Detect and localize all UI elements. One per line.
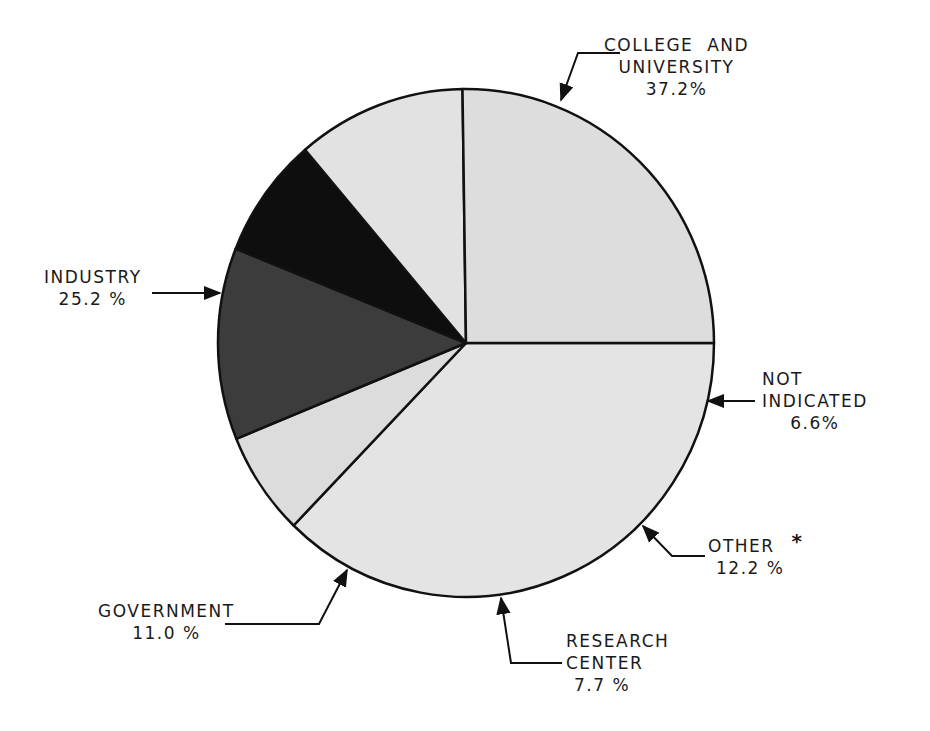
label-research-line2: CENTER [566, 652, 669, 674]
label-college-university: COLLEGE AND UNIVERSITY 37.2% [604, 34, 749, 100]
label-college-pct: 37.2% [604, 78, 749, 100]
label-government-pct: 11.0 % [98, 622, 235, 644]
label-research-center: RESEARCH CENTER 7.7 % [566, 630, 669, 696]
label-government-line1: GOVERNMENT [98, 600, 235, 622]
other-leader [643, 526, 705, 556]
label-research-line1: RESEARCH [566, 630, 669, 652]
label-other: OTHER * 12.2 % [708, 534, 803, 579]
label-not-indicated: NOT INDICATED 6.6% [762, 368, 868, 434]
government-leader [225, 570, 347, 624]
pie-slices [218, 89, 714, 597]
label-college-line2: UNIVERSITY [604, 56, 749, 78]
research-leader [501, 598, 562, 663]
label-research-pct: 7.7 % [566, 674, 669, 696]
label-not-indicated-line1: NOT [762, 368, 868, 390]
asterisk-footnote-mark: * [792, 529, 804, 553]
label-industry-line1: INDUSTRY [44, 266, 142, 288]
label-industry: INDUSTRY 25.2 % [44, 266, 142, 310]
label-government: GOVERNMENT 11.0 % [98, 600, 235, 644]
label-college-line1: COLLEGE AND [604, 34, 749, 56]
label-other-row: OTHER * [708, 534, 803, 557]
label-not-indicated-line2: INDICATED [762, 390, 868, 412]
label-other-pct: 12.2 % [708, 557, 803, 579]
label-not-indicated-pct: 6.6% [762, 412, 868, 434]
label-other-line1: OTHER [708, 536, 775, 556]
label-industry-pct: 25.2 % [44, 288, 142, 310]
pie-slice-industry [463, 89, 715, 343]
